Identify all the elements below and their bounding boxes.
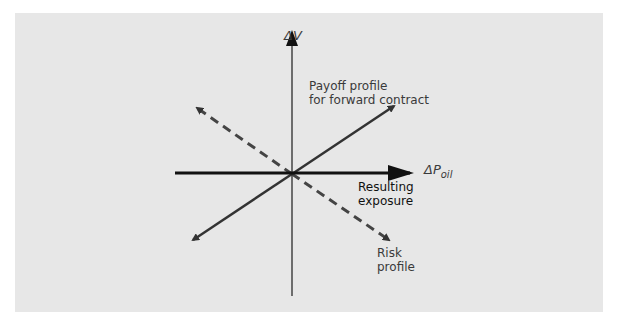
payoff-profile-line-lower bbox=[193, 174, 292, 240]
risk-profile-line bbox=[197, 108, 292, 174]
risk-profile-label: Risk profile bbox=[377, 246, 415, 274]
payoff-profile-label: Payoff profile for forward contract bbox=[309, 79, 429, 107]
risk-label-line1: Risk bbox=[377, 246, 415, 260]
payoff-label-line2: for forward contract bbox=[309, 93, 429, 107]
resulting-label-line2: exposure bbox=[358, 194, 414, 208]
resulting-exposure-label: Resulting exposure bbox=[358, 180, 414, 208]
payoff-label-line1: Payoff profile bbox=[309, 79, 429, 93]
risk-label-line2: profile bbox=[377, 260, 415, 274]
x-axis-label-main: ΔP bbox=[424, 162, 441, 177]
y-axis-label: ΔV bbox=[284, 29, 302, 43]
x-axis-label-sub: oil bbox=[441, 169, 453, 180]
resulting-label-line1: Resulting bbox=[358, 180, 414, 194]
x-axis-label: ΔPoil bbox=[424, 163, 452, 182]
payoff-profile-line bbox=[292, 106, 394, 174]
payoff-diagram bbox=[0, 0, 619, 323]
x-axis-arrowhead bbox=[388, 165, 414, 181]
